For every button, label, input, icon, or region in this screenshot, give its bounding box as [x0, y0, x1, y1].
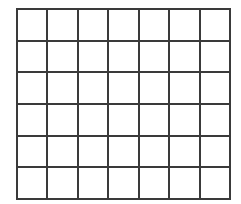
grid-cell — [201, 105, 231, 137]
grid-cell — [48, 42, 78, 74]
grid-cell — [48, 10, 78, 42]
grid-cell — [48, 168, 78, 200]
grid-cell — [79, 105, 109, 137]
grid-cell — [79, 137, 109, 169]
grid-cell — [109, 10, 139, 42]
grid-cell — [18, 42, 48, 74]
grid-cell — [18, 168, 48, 200]
canvas — [0, 0, 241, 204]
grid-cell — [201, 137, 231, 169]
grid-cell — [79, 42, 109, 74]
grid-cell — [170, 168, 200, 200]
grid-cell — [170, 73, 200, 105]
grid-cell — [170, 137, 200, 169]
grid-cell — [109, 137, 139, 169]
grid-cell — [140, 10, 170, 42]
grid-cell — [140, 73, 170, 105]
grid-cell — [48, 73, 78, 105]
grid-cell — [170, 105, 200, 137]
grid-cell — [109, 42, 139, 74]
grid-cell — [18, 105, 48, 137]
grid-cell — [109, 73, 139, 105]
grid-cell — [48, 105, 78, 137]
empty-grid — [16, 8, 231, 200]
grid-cell — [201, 168, 231, 200]
grid-cell — [170, 42, 200, 74]
grid-cell — [109, 105, 139, 137]
grid-cell — [48, 137, 78, 169]
grid-cell — [140, 137, 170, 169]
grid-cell — [18, 137, 48, 169]
grid-cell — [18, 10, 48, 42]
grid-cell — [201, 10, 231, 42]
grid-cell — [170, 10, 200, 42]
grid-cell — [79, 73, 109, 105]
grid-cell — [140, 42, 170, 74]
grid-cell — [201, 42, 231, 74]
grid-cell — [79, 168, 109, 200]
grid-cell — [79, 10, 109, 42]
grid-cell — [109, 168, 139, 200]
grid-cell — [140, 105, 170, 137]
grid-cell — [18, 73, 48, 105]
grid-cell — [201, 73, 231, 105]
grid-cell — [140, 168, 170, 200]
